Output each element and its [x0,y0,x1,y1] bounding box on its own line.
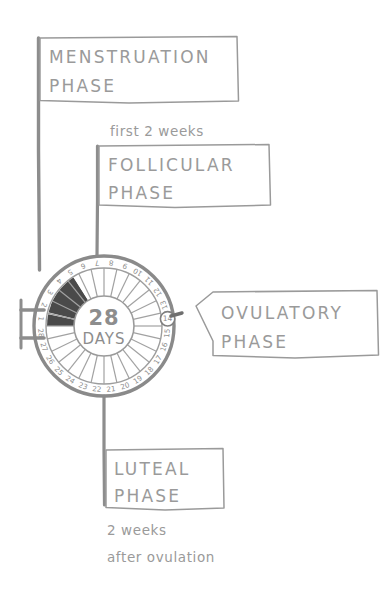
day-number-7: 7 [94,258,100,267]
luteal-flag[interactable]: LUTEAL PHASE [106,449,224,511]
cycle-diagram-canvas: MENSTRUATION PHASE first 2 weeks FOLLICU… [0,0,391,601]
day-number-21: 21 [106,384,116,394]
day-number-22: 22 [92,384,102,394]
luteal-note-line2: after ovulation [107,549,215,565]
ovulatory-flag[interactable]: OVULATORY PHASE [196,291,379,359]
follicular-flag[interactable]: FOLLICULAR PHASE [99,145,271,208]
menstruation-label-line1: MENSTRUATION [49,47,211,67]
day-number-6: 6 [79,261,87,271]
center-day-count: 28 [88,306,119,330]
cycle-diagram-svg: MENSTRUATION PHASE first 2 weeks FOLLICU… [0,0,391,601]
day-number-9: 9 [121,261,129,271]
follicular-label-line1: FOLLICULAR [108,155,235,175]
day-number-5: 5 [66,267,75,277]
luteal-note-line1: 2 weeks [107,522,167,538]
luteal-label-line2: PHASE [114,486,181,506]
day-number-1: 1 [36,316,45,322]
cycle-hub: 28 DAYS [74,296,134,356]
ovulatory-label-line2: PHASE [221,332,288,352]
follicular-label-line2: PHASE [108,183,175,203]
day-14-marker[interactable]: 14 [160,312,174,326]
day-number-8: 8 [108,258,114,268]
center-day-unit: DAYS [82,330,125,348]
follicular-note: first 2 weeks [110,123,204,139]
day-number-3: 3 [45,288,55,297]
luteal-label-line1: LUTEAL [114,459,191,479]
menstruation-label-line2: PHASE [49,76,116,96]
ovulatory-label-line1: OVULATORY [221,303,343,323]
day-number-28: 28 [36,328,46,339]
menstruation-flag[interactable]: MENSTRUATION PHASE [40,37,239,104]
day-number-15: 15 [162,328,172,338]
day-number-2: 2 [39,301,49,308]
